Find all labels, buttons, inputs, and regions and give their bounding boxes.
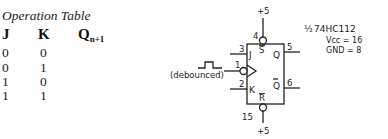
- pin-number-set: 4: [253, 31, 258, 41]
- pin-label-q: Q: [273, 50, 280, 60]
- pulse-waveform-icon: [198, 62, 222, 68]
- pin-label-k: K: [249, 85, 256, 95]
- pin-number-j: 3: [239, 44, 244, 54]
- chip-label: 74HC112: [314, 24, 356, 34]
- set-inversion-bubble: [260, 37, 267, 44]
- pin-number-q: 5: [287, 42, 292, 52]
- pin-number-reset: 15: [242, 112, 253, 122]
- pin-number-clk: 1: [235, 60, 240, 70]
- vcc-label: Vcc = 16: [326, 36, 362, 45]
- pin-label-q-bar: Q: [273, 81, 280, 91]
- clock-inversion-bubble: [240, 68, 247, 75]
- chip-label-fraction: ½: [304, 24, 313, 34]
- top-supply-label: +5: [257, 6, 270, 16]
- pin-label-reset: R: [259, 93, 265, 103]
- pin-label-set: S: [259, 45, 264, 55]
- clock-triangle-icon: [247, 65, 256, 77]
- pin-number-q-bar: 6: [287, 78, 292, 88]
- pin-number-k: 2: [239, 79, 244, 89]
- jk-flip-flop-schematic: +5 +5 4 15 3 1 2 5 6 S R J K Q Q (deboun…: [0, 0, 388, 139]
- bottom-supply-label: +5: [257, 126, 270, 136]
- pin-label-j: J: [248, 50, 252, 60]
- debounced-note: (debounced): [170, 70, 224, 80]
- reset-inversion-bubble: [260, 104, 267, 111]
- gnd-label: GND = 8: [326, 46, 361, 55]
